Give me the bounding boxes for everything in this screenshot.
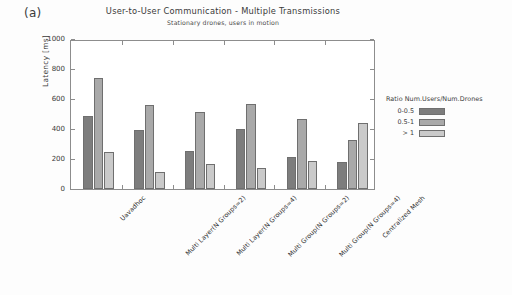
title-block: User-to-User Communication - Multiple Tr… bbox=[70, 6, 376, 26]
y-tick-label: 800 bbox=[52, 65, 65, 73]
legend-item-label: > 1 bbox=[386, 129, 414, 137]
bar bbox=[195, 112, 205, 189]
legend-color-swatch bbox=[419, 119, 445, 126]
bar bbox=[134, 130, 144, 189]
bar bbox=[358, 123, 368, 189]
legend-color-swatch bbox=[419, 130, 445, 137]
y-tick-label: 0 bbox=[61, 185, 65, 193]
x-category-label: Multi Layer(N Groups=4) bbox=[235, 194, 298, 257]
bar bbox=[155, 172, 165, 189]
y-tick-label: 1000 bbox=[47, 35, 65, 43]
legend-item[interactable]: 0-0.5 bbox=[386, 107, 506, 115]
legend-item-label: 0-0.5 bbox=[386, 107, 414, 115]
bar bbox=[104, 152, 114, 189]
bar bbox=[337, 162, 347, 189]
bar bbox=[145, 105, 155, 189]
bar bbox=[308, 161, 318, 190]
y-tick-label: 600 bbox=[52, 95, 65, 103]
legend-item[interactable]: > 1 bbox=[386, 129, 506, 137]
legend: Ratio Num.Users/Num.Drones 0-0.50.5-1> 1 bbox=[386, 95, 506, 140]
y-tick-mark bbox=[370, 39, 374, 40]
x-category-label: Centralized Mesh bbox=[380, 194, 426, 240]
bar bbox=[348, 140, 358, 190]
bar bbox=[297, 119, 307, 190]
bar bbox=[94, 78, 104, 189]
bar bbox=[83, 116, 93, 189]
bar bbox=[246, 104, 256, 189]
plot-area: Latency [ms] 02004006008001000 bbox=[70, 40, 375, 190]
y-tick-label: 400 bbox=[52, 125, 65, 133]
bars-layer bbox=[71, 41, 374, 189]
legend-item[interactable]: 0.5-1 bbox=[386, 118, 506, 126]
y-tick-mark bbox=[71, 39, 75, 40]
legend-title: Ratio Num.Users/Num.Drones bbox=[386, 95, 506, 103]
x-axis-category-labels: UavadhocMulti Layer(N Groups=2)Multi Lay… bbox=[70, 190, 375, 290]
chart-title: User-to-User Communication - Multiple Tr… bbox=[70, 6, 376, 16]
bar bbox=[206, 164, 216, 190]
bar bbox=[236, 129, 246, 189]
legend-rows: 0-0.50.5-1> 1 bbox=[386, 107, 506, 137]
bar bbox=[185, 151, 195, 189]
bar bbox=[287, 157, 297, 189]
y-tick-label: 200 bbox=[52, 155, 65, 163]
panel-label: (a) bbox=[24, 6, 41, 20]
chart-subtitle: Stationary drones, users in motion bbox=[70, 19, 376, 26]
legend-item-label: 0.5-1 bbox=[386, 118, 414, 126]
x-category-label: Uavadhoc bbox=[119, 194, 148, 223]
legend-color-swatch bbox=[419, 108, 445, 115]
figure-canvas: (a) User-to-User Communication - Multipl… bbox=[0, 0, 512, 295]
bar bbox=[257, 168, 267, 189]
